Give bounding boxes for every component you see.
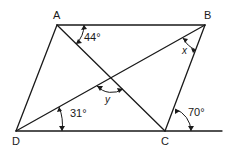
- vertex-label-b: B: [204, 9, 211, 21]
- angle-label-a: 44°: [84, 31, 101, 43]
- angle-label-c: 70°: [188, 106, 205, 118]
- arrowhead-icon: [188, 126, 194, 131]
- arrowhead-icon: [81, 25, 87, 30]
- geometry-diagram: 44° x 31° y 70° A B D C: [0, 0, 232, 150]
- angle-label-y: y: [104, 94, 111, 105]
- vertex-label-d: D: [12, 135, 20, 147]
- arrowhead-icon: [59, 126, 65, 131]
- vertex-label-a: A: [53, 9, 61, 21]
- diagonal-db: [16, 25, 205, 131]
- angle-label-d: 31°: [70, 107, 87, 119]
- side-ad: [16, 25, 57, 131]
- arrowhead-icon: [183, 38, 188, 43]
- vertex-label-c: C: [161, 135, 169, 147]
- angle-label-x: x: [181, 45, 188, 56]
